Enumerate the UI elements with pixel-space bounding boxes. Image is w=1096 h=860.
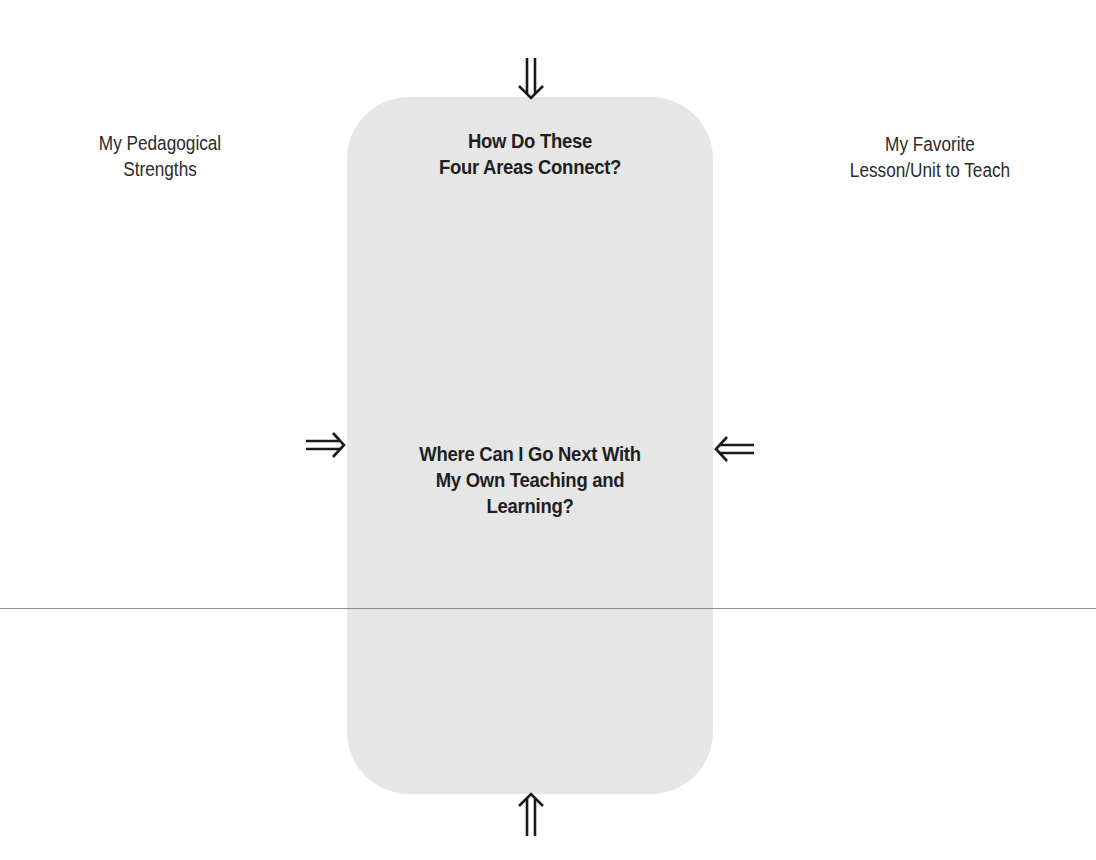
central-reflection-box: How Do These Four Areas Connect? Where C…: [347, 97, 713, 794]
heading-line: How Do These: [369, 128, 691, 154]
heading-line: Four Areas Connect?: [369, 154, 691, 180]
label-line: My Favorite: [801, 131, 1059, 157]
label-favorite-lesson: My Favorite Lesson/Unit to Teach: [801, 131, 1059, 183]
label-line: Strengths: [40, 156, 281, 182]
heading-line: Where Can I Go Next With: [369, 441, 691, 467]
double-arrow-right-icon: [306, 430, 346, 460]
box-heading-next-steps: Where Can I Go Next With My Own Teaching…: [369, 441, 691, 519]
horizontal-divider: [0, 608, 1096, 609]
double-arrow-up-icon: [516, 792, 546, 836]
label-line: My Pedagogical: [40, 130, 281, 156]
heading-line: Learning?: [369, 493, 691, 519]
label-line: Lesson/Unit to Teach: [801, 157, 1059, 183]
double-arrow-left-icon: [714, 434, 754, 464]
heading-line: My Own Teaching and: [369, 467, 691, 493]
box-heading-connect: How Do These Four Areas Connect?: [369, 128, 691, 180]
double-arrow-down-icon: [516, 58, 546, 100]
label-pedagogical-strengths: My Pedagogical Strengths: [40, 130, 281, 182]
